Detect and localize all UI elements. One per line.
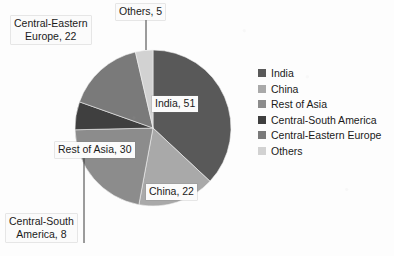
legend-item-label: Central-Eastern Europe bbox=[271, 129, 381, 141]
pie-slices bbox=[75, 50, 231, 206]
legend-swatch-icon bbox=[258, 131, 266, 139]
legend-item[interactable]: China bbox=[258, 82, 381, 96]
pie-chart-screenshot: India, 51 China, 22 Rest of Asia, 30 Cen… bbox=[0, 0, 394, 256]
legend-item-label: China bbox=[271, 83, 298, 95]
data-label-china: China, 22 bbox=[146, 184, 197, 200]
legend-swatch-icon bbox=[258, 100, 266, 108]
legend-swatch-icon bbox=[258, 116, 266, 124]
legend-swatch-icon bbox=[258, 69, 266, 77]
legend-item-label: Rest of Asia bbox=[271, 98, 327, 110]
legend-item[interactable]: Rest of Asia bbox=[258, 97, 381, 111]
legend-item[interactable]: Central-Eastern Europe bbox=[258, 128, 381, 142]
chart-legend: IndiaChinaRest of AsiaCentral-South Amer… bbox=[258, 66, 381, 159]
data-label-central-south-america: Central-South America, 8 bbox=[6, 214, 77, 242]
legend-item-label: India bbox=[271, 67, 294, 79]
data-label-others: Others, 5 bbox=[116, 4, 165, 20]
data-label-central-eastern-europe: Central-Eastern Europe, 22 bbox=[11, 16, 91, 44]
legend-item[interactable]: Central-South America bbox=[258, 113, 381, 127]
legend-item[interactable]: India bbox=[258, 66, 381, 80]
legend-swatch-icon bbox=[258, 85, 266, 93]
legend-item[interactable]: Others bbox=[258, 144, 381, 158]
data-label-india: India, 51 bbox=[152, 96, 198, 112]
legend-swatch-icon bbox=[258, 147, 266, 155]
legend-item-label: Central-South America bbox=[271, 114, 377, 126]
data-label-rest-of-asia: Rest of Asia, 30 bbox=[55, 142, 135, 158]
legend-item-label: Others bbox=[271, 145, 303, 157]
